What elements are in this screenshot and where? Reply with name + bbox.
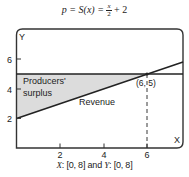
producers-surplus-label-line2: surplus [23, 88, 53, 98]
producers-surplus-label-line1: Producers' [23, 76, 66, 86]
caption-y-range: : [0, 8] [109, 160, 132, 170]
y-tick-label-2: 2 [7, 114, 12, 124]
x-axis-label: X [174, 135, 180, 145]
equilibrium-point-label: (6, 5) [136, 78, 156, 88]
y-tick-label-6: 6 [7, 55, 12, 65]
y-axis-label: Y [19, 32, 25, 42]
x-tick-label-2: 2 [58, 150, 63, 160]
graph-plot: Y X 6 4 2 2 4 6 (6, 5) Producers' surplu… [0, 0, 189, 177]
y-tick-label-4: 4 [7, 85, 12, 95]
window-caption: X: [0, 8] and Y: [0, 8] [0, 160, 189, 170]
x-tick-label-6: 6 [145, 150, 150, 160]
x-tick-label-4: 4 [102, 150, 107, 160]
revenue-label: Revenue [79, 97, 115, 107]
equilibrium-point [145, 72, 148, 75]
caption-x-range: : [0, 8] and [62, 160, 104, 170]
